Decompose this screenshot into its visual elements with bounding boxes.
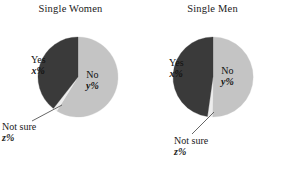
callout-leader-line-single-women: [32, 105, 62, 121]
panel-single-men: Single Men Yes x% No y% Not sure z%: [142, 0, 283, 175]
pie-chart-figure: Single Women Yes x% No y% Not sure z% Si…: [0, 0, 283, 175]
panel-single-women: Single Women Yes x% No y% Not sure z%: [0, 0, 141, 175]
callout-not-sure-single-women: Not sure z%: [2, 122, 36, 144]
pie-slice-yes[interactable]: [173, 37, 213, 117]
pie-slice-no[interactable]: [212, 37, 253, 117]
pie-single-men: Yes x% No y% Not sure z%: [142, 0, 283, 175]
pie-slices-single-women: [38, 37, 118, 117]
callout-not-sure-single-men: Not sure z%: [174, 136, 208, 158]
pie-slices-single-men: [173, 37, 253, 117]
pie-svg-single-men: [142, 0, 283, 175]
pie-svg-single-women: [0, 0, 141, 175]
pie-single-women: Yes x% No y% Not sure z%: [0, 0, 141, 175]
callout-not-sure-value: z%: [2, 133, 36, 144]
callout-not-sure-value: z%: [174, 147, 208, 158]
